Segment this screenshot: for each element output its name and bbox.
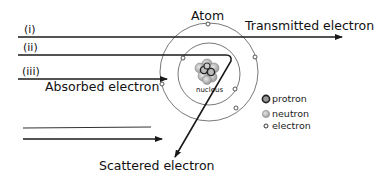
path-i-label: (i) [24,24,36,35]
electron-icon [264,124,268,128]
nucleus [195,59,219,85]
legend-electron-label: electron [272,121,311,131]
path-ii-label: (ii) [23,42,38,53]
proton-icon [262,95,269,102]
transmitted-electron-label: Transmitted electron [245,20,374,33]
atom-label: Atom [191,10,224,23]
absorbed-electron-label: Absorbed electron [45,81,159,94]
nucleus-label: nucleus [196,87,223,94]
incident-line [23,127,151,128]
scattered-electron-label: Scattered electron [99,160,215,173]
path-iii-label: (iii) [22,66,40,77]
neutron-icon [262,110,269,117]
legend-proton-label: protron [272,94,307,104]
legend-neutron-label: neutron [272,109,309,119]
